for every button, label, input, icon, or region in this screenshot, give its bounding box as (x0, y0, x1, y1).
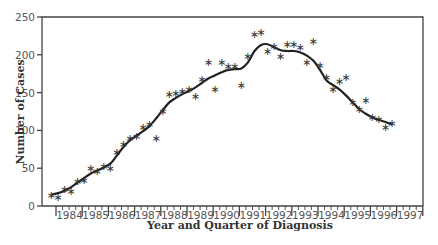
star-marker-icon: ∗ (191, 90, 200, 103)
x-tick-label: 1995 (344, 209, 371, 221)
star-marker-icon: ∗ (296, 41, 305, 54)
x-tick-label: 1997 (397, 209, 424, 221)
y-tick-label: 200 (15, 49, 35, 61)
star-marker-icon: ∗ (145, 118, 154, 131)
x-tick-label: 1996 (371, 209, 398, 221)
star-marker-icon: ∗ (80, 174, 89, 187)
x-tick-label: 1986 (109, 209, 136, 221)
star-marker-icon: ∗ (387, 117, 396, 130)
star-marker-icon: ∗ (211, 83, 220, 96)
star-marker-icon: ∗ (230, 60, 239, 73)
star-marker-icon: ∗ (204, 56, 213, 69)
data-markers: ∗∗∗∗∗∗∗∗∗∗∗∗∗∗∗∗∗∗∗∗∗∗∗∗∗∗∗∗∗∗∗∗∗∗∗∗∗∗∗∗… (47, 26, 397, 204)
x-axis-title: Year and Quarter of Diagnosis (146, 219, 333, 232)
x-tick-label: 1984 (56, 209, 83, 221)
star-marker-icon: ∗ (309, 35, 318, 48)
star-marker-icon: ∗ (106, 162, 115, 175)
y-axis-title: Number of Cases (14, 59, 27, 164)
star-marker-icon: ∗ (361, 94, 370, 107)
star-marker-icon: ∗ (315, 59, 324, 72)
star-marker-icon: ∗ (152, 132, 161, 145)
star-marker-icon: ∗ (276, 50, 285, 63)
star-marker-icon: ∗ (302, 56, 311, 69)
star-marker-icon: ∗ (342, 71, 351, 84)
chart-canvas: 050100150200250 198419851986198719881989… (0, 0, 438, 245)
star-marker-icon: ∗ (158, 105, 167, 118)
star-marker-icon: ∗ (256, 26, 265, 39)
star-marker-icon: ∗ (197, 73, 206, 86)
y-tick-label: 250 (15, 11, 35, 23)
x-tick-label: 1985 (82, 209, 109, 221)
y-tick-label: 0 (28, 200, 35, 212)
star-marker-icon: ∗ (237, 79, 246, 92)
star-marker-icon: ∗ (243, 50, 252, 63)
